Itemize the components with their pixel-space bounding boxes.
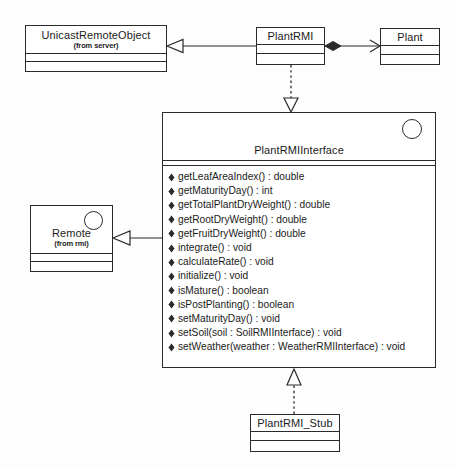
public-operation-marker-icon <box>168 301 176 309</box>
operation-row: isPostPlanting() : boolean <box>168 298 433 312</box>
class-title: PlantRMI_Stub <box>257 417 332 429</box>
operation-signature: getRootDryWeight() : double <box>178 214 307 226</box>
class-name-compartment: PlantRMI_Stub <box>251 415 339 432</box>
class-operations-compartment <box>257 54 324 64</box>
class-attributes-compartment <box>381 46 439 55</box>
class-title: PlantRMI <box>267 30 313 42</box>
class-attributes-compartment <box>31 254 112 262</box>
hollow-triangle-arrow-icon <box>284 98 298 112</box>
operation-signature: initialize() : void <box>178 270 248 282</box>
class-box-remote[interactable]: Remote (from rmi) <box>30 205 113 272</box>
class-name-compartment: PlantRMIInterface <box>163 113 435 161</box>
public-operation-marker-icon <box>168 258 176 266</box>
class-title: UnicastRemoteObject <box>42 29 151 41</box>
operation-signature: getMaturityDay() : int <box>178 185 273 197</box>
operation-row: setSoil(soil : SoilRMIInterface) : void <box>168 326 433 340</box>
class-box-unicast-remote-object[interactable]: UnicastRemoteObject (from server) <box>25 25 167 72</box>
class-title: Remote <box>52 227 91 239</box>
operation-signature: setWeather(weather : WeatherRMIInterface… <box>178 341 405 353</box>
class-name-compartment: Plant <box>381 29 439 46</box>
public-operation-marker-icon <box>168 230 176 238</box>
operation-signature: isPostPlanting() : boolean <box>178 299 294 311</box>
hollow-triangle-arrow-icon <box>287 369 301 385</box>
operation-signature: setSoil(soil : SoilRMIInterface) : void <box>178 327 342 339</box>
public-operation-marker-icon <box>168 187 176 195</box>
operation-row: setWeather(weather : WeatherRMIInterface… <box>168 340 433 354</box>
operation-row: initialize() : void <box>168 269 433 283</box>
operation-row: getTotalPlantDryWeight() : double <box>168 198 433 212</box>
class-stereotype: (from rmi) <box>54 239 88 248</box>
public-operation-marker-icon <box>168 329 176 337</box>
public-operation-marker-icon <box>168 272 176 280</box>
class-operations-compartment <box>381 55 439 64</box>
class-name-compartment: UnicastRemoteObject (from server) <box>26 26 166 54</box>
operation-signature: setMaturityDay() : void <box>178 313 280 325</box>
public-operation-marker-icon <box>168 315 176 323</box>
class-title: PlantRMIInterface <box>254 144 344 156</box>
class-title: Plant <box>397 31 423 43</box>
filled-diamond-icon <box>325 42 341 51</box>
public-operation-marker-icon <box>168 343 176 351</box>
operation-signature: getLeafAreaIndex() : double <box>178 171 304 183</box>
interface-circle-icon <box>84 211 103 230</box>
open-arrow-icon <box>370 40 380 52</box>
operation-row: getRootDryWeight() : double <box>168 213 433 227</box>
class-attributes-compartment <box>257 45 324 54</box>
operation-row: getLeafAreaIndex() : double <box>168 170 433 184</box>
hollow-triangle-arrow-icon <box>113 231 130 245</box>
class-box-plant-rmi[interactable]: PlantRMI <box>256 27 325 65</box>
public-operation-marker-icon <box>168 244 176 252</box>
class-operations-compartment <box>26 62 166 71</box>
operation-row: calculateRate() : void <box>168 255 433 269</box>
interface-circle-icon <box>402 119 422 139</box>
class-box-plant-rmi-interface[interactable]: PlantRMIInterface getLeafAreaIndex() : d… <box>162 112 436 368</box>
class-operations-compartment: getLeafAreaIndex() : doublegetMaturityDa… <box>163 166 435 367</box>
public-operation-marker-icon <box>168 287 176 295</box>
class-attributes-compartment <box>26 54 166 62</box>
operation-signature: isMature() : boolean <box>178 285 269 297</box>
operation-row: isMature() : boolean <box>168 284 433 298</box>
connector-plantrmi-realizes-plantrmiinterface <box>284 65 298 112</box>
class-stereotype: (from server) <box>74 41 119 50</box>
operation-row: integrate() : void <box>168 241 433 255</box>
class-box-plant[interactable]: Plant <box>380 28 440 65</box>
operation-signature: integrate() : void <box>178 242 252 254</box>
operation-row: setMaturityDay() : void <box>168 312 433 326</box>
operation-signature: calculateRate() : void <box>178 256 274 268</box>
connector-plantrmistub-realizes-plantrmiinterface <box>287 369 301 414</box>
uml-class-diagram-canvas: UnicastRemoteObject (from server) PlantR… <box>0 0 457 466</box>
connector-plantrmiinterface-extends-remote <box>113 231 162 245</box>
class-name-compartment: PlantRMI <box>257 28 324 45</box>
operation-signature: getFruitDryWeight() : double <box>178 228 306 240</box>
public-operation-marker-icon <box>168 201 176 209</box>
operation-row: getMaturityDay() : int <box>168 184 433 198</box>
class-box-plant-rmi-stub[interactable]: PlantRMI_Stub <box>250 414 340 452</box>
connector-plantrmi-composes-plant <box>325 40 380 52</box>
public-operation-marker-icon <box>168 173 176 181</box>
operation-signature: getTotalPlantDryWeight() : double <box>178 199 330 211</box>
public-operation-marker-icon <box>168 216 176 224</box>
class-operations-compartment <box>31 262 112 271</box>
class-attributes-compartment <box>251 432 339 441</box>
connector-plantrmi-extends-unicastremoteobject <box>167 40 256 53</box>
operation-row: getFruitDryWeight() : double <box>168 227 433 241</box>
class-operations-compartment <box>251 441 339 451</box>
class-name-compartment: Remote (from rmi) <box>31 206 112 254</box>
hollow-triangle-arrow-icon <box>167 40 183 53</box>
